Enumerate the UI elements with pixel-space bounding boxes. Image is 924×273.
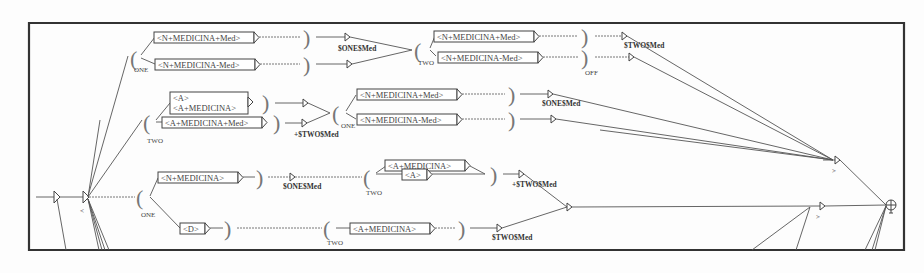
open-paren-one-3: ( [136, 185, 143, 210]
close-paren: ) [256, 165, 263, 190]
close-paren: ) [303, 25, 310, 50]
close-paren: ) [508, 107, 515, 132]
close-paren: ) [508, 82, 515, 107]
node-top2[interactable]: <N+MEDICINA-Med> [155, 59, 260, 70]
output-node[interactable] [303, 99, 308, 107]
node-low5[interactable]: <A+MEDICINA> [350, 223, 435, 234]
right-context-node-1[interactable] [835, 156, 840, 164]
output-node[interactable] [347, 60, 352, 68]
output-one-med-3: $ONE$Med [283, 182, 322, 191]
open-paren-two-2: ( [143, 110, 150, 135]
right-context-mark-1: > [832, 167, 836, 175]
output-node[interactable] [497, 224, 502, 232]
output-node[interactable] [302, 119, 307, 127]
close-paren: ) [581, 45, 588, 70]
svg-text:<N+MEDICINA+Med>: <N+MEDICINA+Med> [437, 32, 521, 42]
svg-text:<A+MEDICINA>: <A+MEDICINA> [353, 224, 416, 234]
node-mid1[interactable]: <A> <A+MEDICINA> [170, 92, 253, 114]
var-two-3: TWO [366, 189, 382, 197]
svg-text:<N+MEDICINA-Med>: <N+MEDICINA-Med> [360, 115, 442, 125]
svg-text:<N+MEDICINA+Med>: <N+MEDICINA+Med> [360, 90, 444, 100]
merge-node[interactable] [567, 203, 572, 211]
node-low4[interactable]: <D> [180, 223, 210, 234]
close-paren: ) [303, 52, 310, 77]
output-two-med-2: $TWO$Med [492, 233, 533, 242]
node-mid3[interactable]: <N+MEDICINA+Med> [357, 89, 462, 100]
final-state[interactable] [886, 200, 896, 213]
close-paren: ) [490, 162, 497, 187]
output-plus-two-med-2: +$TWO$Med [512, 180, 558, 189]
svg-text:<A+MEDICINA>: <A+MEDICINA> [173, 103, 236, 113]
output-node[interactable] [345, 33, 350, 41]
output-two-med: $TWO$Med [624, 41, 665, 50]
output-node[interactable] [548, 90, 553, 98]
var-one-2: ONE [341, 122, 355, 130]
open-paren-two-3: ( [363, 165, 370, 190]
output-one-med-2: $ONE$Med [542, 99, 581, 108]
output-one-med: $ONE$Med [338, 44, 377, 53]
var-off: OFF [585, 69, 598, 77]
open-paren-one-2: ( [332, 101, 339, 126]
close-paren: ) [458, 216, 465, 241]
right-context-mark-2: > [816, 213, 820, 221]
close-paren: ) [273, 110, 280, 135]
open-paren-two-4: ( [323, 216, 330, 241]
svg-text:<A>: <A> [405, 170, 421, 180]
graph-canvas: < ( ONE <N+MEDICINA+Med> ) <N+MEDICINA-M… [0, 0, 924, 273]
var-two-2: TWO [147, 137, 163, 145]
node-mid4[interactable]: <N+MEDICINA-Med> [357, 114, 462, 125]
svg-text:<N+MEDICINA-Med>: <N+MEDICINA-Med> [441, 53, 523, 63]
svg-text:<A+MEDICINA+Med>: <A+MEDICINA+Med> [165, 118, 249, 128]
var-one: ONE [134, 66, 148, 74]
svg-text:<D>: <D> [183, 224, 199, 234]
node-low1[interactable]: <N+MEDICINA> [158, 172, 243, 183]
right-context-node-2[interactable] [820, 202, 825, 210]
svg-text:<A>: <A> [173, 93, 189, 103]
output-plus-two-med: +$TWO$Med [294, 130, 340, 139]
var-two-4: TWO [327, 239, 343, 247]
node-top4[interactable]: <N+MEDICINA-Med> [438, 52, 543, 63]
close-paren: ) [224, 216, 231, 241]
var-two: TWO [418, 59, 434, 67]
output-node[interactable] [551, 115, 556, 123]
node-top1[interactable]: <N+MEDICINA+Med> [154, 32, 259, 43]
output-node[interactable] [622, 32, 627, 40]
close-paren: ) [262, 90, 269, 115]
left-context-mark: < [80, 207, 84, 215]
svg-text:<N+MEDICINA>: <N+MEDICINA> [161, 173, 224, 183]
output-node[interactable] [629, 53, 634, 61]
initial-state[interactable] [36, 191, 60, 203]
node-top3[interactable]: <N+MEDICINA+Med> [434, 31, 539, 42]
var-one-3: ONE [141, 211, 155, 219]
output-node[interactable] [290, 173, 295, 181]
output-node[interactable] [519, 170, 524, 178]
svg-text:<N+MEDICINA+Med>: <N+MEDICINA+Med> [157, 33, 241, 43]
node-low3[interactable]: <A> [402, 169, 432, 180]
svg-text:<N+MEDICINA-Med>: <N+MEDICINA-Med> [158, 60, 240, 70]
node-mid2[interactable]: <A+MEDICINA+Med> [162, 117, 267, 128]
